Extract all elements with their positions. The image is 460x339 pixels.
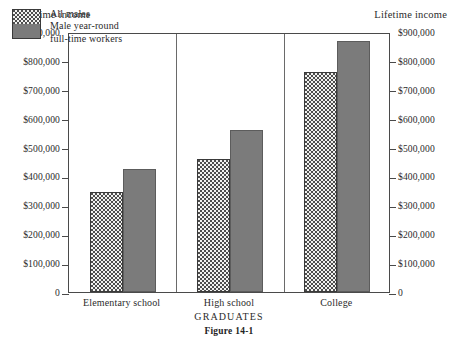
y-tick-label-left: $600,000 [23,114,60,125]
plot-area: $900,000$900,000$800,000$800,000$700,000… [68,33,390,293]
right-axis-title: Lifetime income [374,9,447,20]
y-tick-label-left: $100,000 [23,258,60,269]
legend: All males Male year-round full-time work… [12,9,122,45]
y-tick-label-right: $500,000 [398,143,435,154]
bar-fulltime [123,169,156,292]
category-label: High school [204,297,254,308]
y-tick-mark-right [389,62,396,63]
bars-layer [69,34,389,292]
y-tick-mark-right [389,265,396,266]
legend-label-fulltime-line2: full-time workers [50,33,122,45]
y-tick-mark-right [389,120,396,121]
y-tick-mark-right [389,294,396,295]
y-tick-mark-right [389,91,396,92]
y-tick-mark-right [389,207,396,208]
category-label: Elementary school [83,297,160,308]
bar-fulltime [337,41,370,292]
y-tick-mark-left [62,207,69,208]
y-tick-label-right: $800,000 [398,56,435,67]
figure-caption: Figure 14-1 [204,326,253,336]
legend-swatch-fulltime [13,24,40,38]
y-tick-mark-left [62,120,69,121]
y-tick-label-left: $700,000 [23,85,60,96]
bar-all-males [90,192,123,292]
y-tick-label-right: $300,000 [398,200,435,211]
y-tick-mark-left [62,265,69,266]
legend-label-fulltime-line1: Male year-round [50,20,122,32]
y-tick-label-right: $600,000 [398,114,435,125]
y-tick-label-right: $200,000 [398,229,435,240]
legend-swatch-stack [12,9,41,39]
category-label: College [320,297,352,308]
figure-14-1: Lifetime income Lifetime income $900,000… [0,0,460,339]
y-tick-mark-left [62,178,69,179]
y-tick-label-left: $200,000 [23,229,60,240]
y-tick-mark-right [389,149,396,150]
y-tick-label-right: $400,000 [398,171,435,182]
y-tick-mark-left [62,294,69,295]
x-axis-title: GRADUATES [194,311,263,322]
y-tick-label-left: $500,000 [23,143,60,154]
y-tick-label-left: 0 [55,287,60,298]
legend-label-all-males: All males [50,8,122,20]
y-tick-mark-left [62,91,69,92]
y-tick-mark-left [62,236,69,237]
bar-fulltime [230,130,263,292]
legend-swatch-all-males [13,10,40,24]
y-tick-mark-left [62,149,69,150]
y-tick-label-left: $800,000 [23,56,60,67]
y-tick-label-right: $100,000 [398,258,435,269]
y-tick-mark-right [389,178,396,179]
y-tick-label-right: $700,000 [398,85,435,96]
y-tick-label-left: $400,000 [23,171,60,182]
bar-all-males [197,159,230,292]
bar-all-males [304,72,337,292]
y-tick-label-right: $900,000 [398,27,435,38]
y-tick-mark-right [389,236,396,237]
y-tick-label-left: $300,000 [23,200,60,211]
legend-labels: All males Male year-round full-time work… [50,8,122,45]
y-tick-mark-left [62,62,69,63]
y-tick-label-right: 0 [398,287,403,298]
